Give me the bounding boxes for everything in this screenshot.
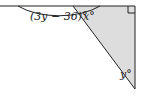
bottom-angle-label: y° <box>119 68 132 81</box>
geometry-diagram: (3y − 36)° x° y° <box>0 0 144 97</box>
top-angle-label: x° <box>83 10 95 23</box>
left-angle-label: (3y − 36)° <box>30 10 88 23</box>
